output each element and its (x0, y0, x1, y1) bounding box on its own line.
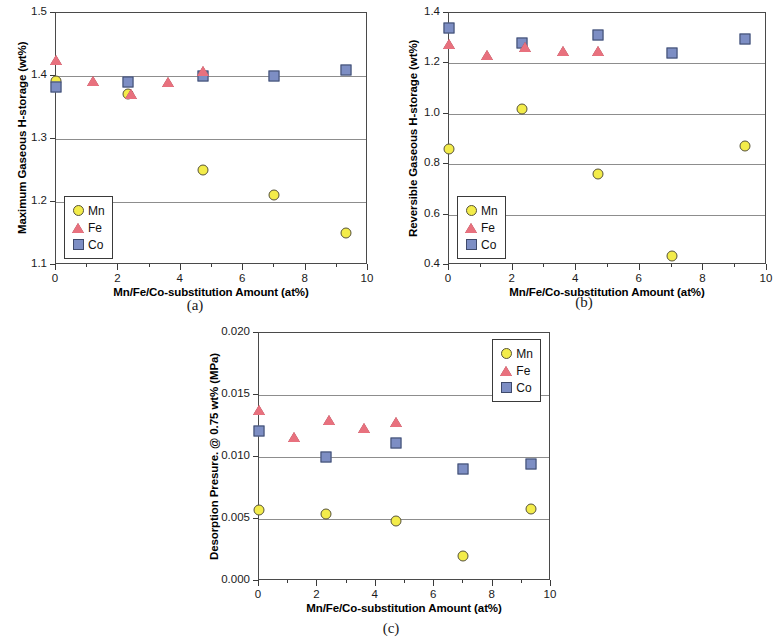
data-point-fe (481, 50, 493, 60)
data-point-mn (254, 505, 265, 516)
data-point-fe (443, 39, 455, 49)
data-point-fe (323, 415, 335, 425)
panel-b: MnFeCo Reversible Gaseous H-storage (wt%… (390, 0, 778, 316)
caption-b: (b) (390, 294, 778, 311)
data-point-fe (162, 77, 174, 87)
y-axis-tick-label: 1.4 (392, 6, 440, 18)
data-point-co (458, 464, 469, 475)
x-axis-tick (86, 264, 87, 267)
co-marker-icon (71, 239, 85, 250)
x-axis-tick (258, 580, 259, 586)
data-point-co (51, 81, 62, 92)
legend-label: Fe (88, 222, 102, 234)
legend-label: Mn (88, 205, 105, 217)
x-axis-tick-label: 4 (555, 273, 595, 285)
y-axis-tick (443, 113, 448, 114)
caption-c: (c) (186, 620, 596, 637)
y-axis-tick (443, 163, 448, 164)
legend-item-mn: Mn (71, 202, 105, 219)
mn-marker-icon (499, 348, 513, 359)
gridline (56, 139, 366, 140)
data-point-mn (593, 168, 604, 179)
panel-a: MnFeCo Maximum Gaseous H-storage (wt%) M… (0, 0, 390, 316)
legend-label: Fe (481, 222, 495, 234)
data-point-co (269, 71, 280, 82)
x-axis-tick (242, 264, 243, 270)
x-axis-tick-label: 8 (682, 273, 722, 285)
y-axis-tick (50, 75, 55, 76)
x-axis-tick-label: 10 (530, 589, 570, 601)
y-axis-tick-label: 0.8 (392, 157, 440, 169)
mn-marker-icon (464, 205, 478, 216)
y-axis-tick-label: 1.3 (0, 132, 47, 144)
x-axis-tick (404, 580, 405, 583)
data-point-co (341, 64, 352, 75)
y-axis-tick (50, 138, 55, 139)
y-axis-tick-label: 1.5 (0, 6, 47, 18)
legend-label: Fe (516, 365, 530, 377)
legend-label: Co (516, 382, 531, 394)
gridline (56, 76, 366, 77)
x-axis-tick-label: 2 (492, 273, 532, 285)
legend-label: Co (481, 239, 496, 251)
gridline (259, 457, 549, 458)
x-axis-tick (462, 580, 463, 583)
x-axis-tick-label: 6 (619, 273, 659, 285)
y-axis-tick (253, 456, 258, 457)
data-point-fe (50, 55, 62, 65)
caption-a: (a) (0, 297, 390, 314)
x-axis-tick (375, 580, 376, 586)
x-axis-tick (287, 580, 288, 583)
y-axis-tick-label: 0.020 (202, 326, 250, 338)
x-axis-tick (766, 264, 767, 270)
x-axis-tick (346, 580, 347, 583)
legend-item-mn: Mn (499, 345, 533, 362)
x-axis-tick (149, 264, 150, 267)
y-axis-tick (443, 62, 448, 63)
data-point-mn (666, 251, 677, 262)
x-axis-title-c: Mn/Fe/Co-substitution Amount (at%) (258, 602, 550, 614)
x-axis-tick-label: 0 (35, 273, 75, 285)
x-axis-tick (273, 264, 274, 267)
legend-item-co: Co (71, 236, 105, 253)
x-axis-tick-label: 6 (222, 273, 262, 285)
data-point-mn (525, 504, 536, 515)
x-axis-tick (367, 264, 368, 270)
plot-area-a: MnFeCo (55, 12, 367, 264)
data-point-fe (253, 405, 265, 415)
x-axis-tick (316, 580, 317, 586)
x-axis-tick (702, 264, 703, 270)
x-axis-tick (607, 264, 608, 267)
y-axis-tick (443, 214, 448, 215)
x-axis-tick-label: 0 (428, 273, 468, 285)
x-axis-tick (521, 580, 522, 583)
data-point-co (444, 22, 455, 33)
data-point-co (525, 459, 536, 470)
data-point-mn (458, 551, 469, 562)
y-axis-tick-label: 1.2 (392, 56, 440, 68)
y-axis-tick (50, 201, 55, 202)
x-axis-tick (55, 264, 56, 270)
legend-item-mn: Mn (464, 202, 498, 219)
y-axis-tick (253, 518, 258, 519)
legend-c: MnFeCo (492, 339, 541, 402)
x-axis-tick (734, 264, 735, 267)
co-marker-icon (464, 239, 478, 250)
co-marker-icon (499, 382, 513, 393)
plot-area-c: MnFeCo (258, 332, 550, 580)
gridline (259, 519, 549, 520)
data-point-co (254, 425, 265, 436)
fe-marker-icon (71, 223, 85, 233)
y-axis-tick-label: 1.1 (0, 258, 47, 270)
data-point-fe (197, 66, 209, 76)
data-point-fe (519, 42, 531, 52)
gridline (449, 164, 765, 165)
y-axis-tick (50, 12, 55, 13)
legend-item-fe: Fe (499, 362, 533, 379)
x-axis-tick (180, 264, 181, 270)
data-point-co (391, 438, 402, 449)
data-point-fe (87, 76, 99, 86)
x-axis-tick (543, 264, 544, 267)
x-axis-tick (336, 264, 337, 267)
